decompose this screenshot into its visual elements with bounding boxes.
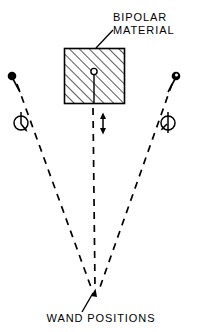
wand-positions-label: WAND POSITIONS [0, 312, 202, 325]
wand-path-center [93, 108, 95, 288]
right-wand-tip [168, 72, 180, 92]
pivot-circle-icon [91, 68, 97, 74]
left-wand-tip [8, 72, 20, 92]
bipolar-leader-line [96, 30, 113, 48]
double-headed-arrow-icon [100, 113, 106, 135]
bipolar-material-label-line2: MATERIAL [113, 24, 174, 37]
bipolar-material-label: BIPOLAR MATERIAL [113, 11, 174, 37]
diagram-canvas [0, 0, 202, 332]
bipolar-material-label-line1: BIPOLAR [113, 11, 174, 24]
left-wand-dot-icon [8, 72, 17, 81]
bipolar-material-diagram: BIPOLAR MATERIAL WAND POSITIONS [0, 0, 202, 332]
left-rotation-arrow-icon [14, 112, 28, 132]
wand-path-right [99, 84, 172, 290]
right-rotation-arrow-icon [161, 112, 176, 133]
wand-positions-leader [82, 289, 97, 313]
wand-path-left [17, 84, 92, 290]
